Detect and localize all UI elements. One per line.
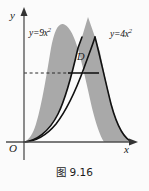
- plot-svg: [0, 0, 149, 162]
- plot-area: y x O y=9x2 y=4x2 D: [0, 0, 149, 162]
- y-axis-label: y: [10, 10, 15, 21]
- y-axis-arrowhead: [21, 7, 28, 16]
- right-curve-label: y=4x2: [110, 28, 132, 40]
- left-curve-label: y=9x2: [29, 27, 51, 39]
- right-curve-label-text: y=4x: [110, 29, 129, 39]
- x-axis-label: x: [124, 144, 129, 155]
- left-curve-label-text: y=9x: [29, 28, 48, 38]
- figure-container: y x O y=9x2 y=4x2 D 图 9.16: [0, 0, 149, 191]
- x-axis-arrowhead: [129, 138, 138, 145]
- figure-caption: 图 9.16: [0, 166, 149, 179]
- right-curve-label-exponent: 2: [129, 27, 132, 34]
- region-label-d: D: [77, 52, 85, 63]
- left-curve-label-exponent: 2: [48, 26, 51, 33]
- origin-label: O: [9, 143, 17, 154]
